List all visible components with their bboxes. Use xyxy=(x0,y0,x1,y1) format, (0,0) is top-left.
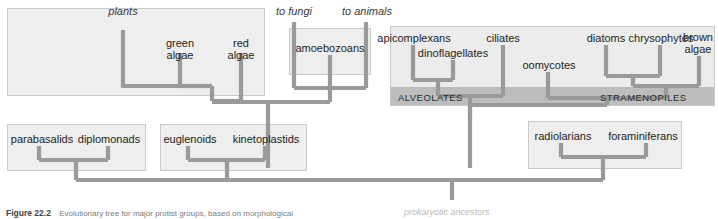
label-amoebozoans: amoebozoans xyxy=(292,42,368,54)
figure-number: Figure 22.2 xyxy=(6,208,51,218)
figure-caption-text: Evolutionary tree for major protist grou… xyxy=(59,209,293,218)
label-brown-algae-line1: brown xyxy=(677,32,718,44)
figure-caption: Figure 22.2 Evolutionary tree for major … xyxy=(6,209,293,218)
label-diatoms: diatoms xyxy=(582,32,630,44)
label-diplomonads: diplomonads xyxy=(75,133,143,145)
label-alveolates: ALVEOLATES xyxy=(398,92,498,104)
label-to-fungi: to fungi xyxy=(269,5,319,17)
label-oomycotes: oomycotes xyxy=(518,59,580,71)
label-ciliates: ciliates xyxy=(479,32,527,44)
label-apicomplexans: apicomplexans xyxy=(375,32,453,44)
evolutionary-tree-figure: plants green algae red algae to fungi to… xyxy=(0,0,718,219)
label-foraminiferans: foraminiferans xyxy=(603,130,683,142)
label-green-algae-line1: green xyxy=(155,38,205,50)
label-brown-algae-line2: algae xyxy=(677,44,718,56)
label-prokaryotic-ancestors: prokaryotic ancestors xyxy=(404,208,490,217)
label-dinoflagellates: dinoflagellates xyxy=(412,47,494,59)
label-red-algae-line2: algae xyxy=(216,50,266,62)
label-stramenopiles: STRAMENOPILES xyxy=(600,92,710,104)
label-euglenoids: euglenoids xyxy=(160,133,220,145)
label-green-algae-line2: algae xyxy=(155,50,205,62)
label-red-algae-line1: red xyxy=(216,38,266,50)
label-to-animals: to animals xyxy=(338,5,396,17)
label-radiolarians: radiolarians xyxy=(530,130,596,142)
label-parabasalids: parabasalids xyxy=(9,133,75,145)
label-kinetoplastids: kinetoplastids xyxy=(228,133,304,145)
label-plants: plants xyxy=(98,5,148,17)
